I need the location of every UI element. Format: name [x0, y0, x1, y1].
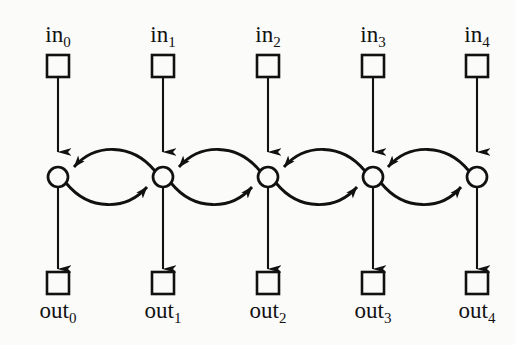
- arrow-right-curve-icon-2-to-3: [277, 184, 358, 205]
- input-label-1: in1: [150, 23, 175, 46]
- input-label-2: in2: [255, 23, 280, 46]
- arrow-left-curve-icon-1-to-0: [74, 149, 155, 170]
- input-port-box-1[interactable]: [152, 55, 174, 77]
- circle-node-icon-4[interactable]: [467, 167, 487, 187]
- diagram-canvas: in0 in1 in2 in3 in4 out0 out1 out2 out3 …: [0, 0, 515, 345]
- input-port-box-3[interactable]: [362, 55, 384, 77]
- input-label-2-subscript: 2: [273, 34, 281, 50]
- circle-node-icon-1[interactable]: [153, 167, 173, 187]
- output-label-2-text: out: [250, 298, 279, 323]
- circle-node-icon-0[interactable]: [48, 167, 68, 187]
- unit-node-group: [48, 167, 487, 187]
- output-label-2-subscript: 2: [279, 310, 287, 326]
- input-label-4: in4: [464, 23, 489, 46]
- output-port-box-0[interactable]: [47, 272, 69, 294]
- input-label-3-text: in: [360, 22, 378, 47]
- arrow-left-curve-icon-4-to-3: [388, 149, 469, 170]
- circle-node-icon-2[interactable]: [258, 167, 278, 187]
- input-label-3: in3: [360, 23, 385, 46]
- output-label-4-subscript: 4: [488, 310, 496, 326]
- arrow-right-curve-icon-3-to-4: [382, 184, 462, 205]
- output-label-0-text: out: [40, 298, 69, 323]
- output-label-1: out1: [145, 299, 182, 322]
- input-arrow-group: [58, 77, 477, 152]
- output-port-box-3[interactable]: [362, 272, 384, 294]
- output-label-4-text: out: [459, 298, 488, 323]
- input-label-2-text: in: [255, 22, 273, 47]
- output-arrow-group: [58, 187, 477, 269]
- output-label-0-subscript: 0: [69, 310, 77, 326]
- arrow-left-curve-icon-3-to-2: [284, 149, 365, 170]
- output-label-4: out4: [459, 299, 496, 322]
- output-port-group: [47, 272, 488, 294]
- circle-node-icon-3[interactable]: [363, 167, 383, 187]
- output-port-box-2[interactable]: [257, 272, 279, 294]
- output-port-box-4[interactable]: [466, 272, 488, 294]
- output-label-1-subscript: 1: [174, 310, 182, 326]
- arrow-right-curve-icon-1-to-2: [172, 184, 253, 205]
- arrow-right-curve-icon-0-to-1: [67, 184, 148, 205]
- output-label-3-text: out: [355, 298, 384, 323]
- output-label-0: out0: [40, 299, 77, 322]
- input-label-1-text: in: [150, 22, 168, 47]
- input-label-1-subscript: 1: [168, 34, 176, 50]
- output-label-1-text: out: [145, 298, 174, 323]
- input-label-0-text: in: [45, 22, 63, 47]
- input-label-0-subscript: 0: [63, 34, 71, 50]
- input-label-4-subscript: 4: [482, 34, 490, 50]
- input-label-0: in0: [45, 23, 70, 46]
- output-label-3-subscript: 3: [384, 310, 392, 326]
- diagram-graphics: [0, 0, 515, 345]
- input-port-group: [47, 55, 488, 77]
- input-label-4-text: in: [464, 22, 482, 47]
- input-port-box-0[interactable]: [47, 55, 69, 77]
- input-label-3-subscript: 3: [378, 34, 386, 50]
- arrow-left-curve-icon-2-to-1: [179, 149, 260, 170]
- output-port-box-1[interactable]: [152, 272, 174, 294]
- input-port-box-4[interactable]: [466, 55, 488, 77]
- output-label-2: out2: [250, 299, 287, 322]
- input-port-box-2[interactable]: [257, 55, 279, 77]
- output-label-3: out3: [355, 299, 392, 322]
